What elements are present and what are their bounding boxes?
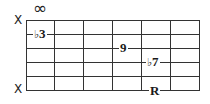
note-9: 9 [119, 41, 128, 54]
degree-label: R [150, 83, 159, 98]
fretboard-grid [0, 0, 210, 104]
note-root: R [149, 84, 160, 97]
note-flat-7: ♭7 [146, 55, 160, 69]
degree-label: 3 [39, 26, 46, 41]
degree-label: 7 [152, 54, 159, 69]
open-position-marker: ∞ [33, 1, 47, 15]
muted-string-marker-top: X [14, 14, 22, 26]
note-flat-3: ♭3 [33, 27, 47, 41]
degree-label: 9 [120, 40, 127, 55]
muted-string-marker-bottom: X [14, 83, 22, 95]
